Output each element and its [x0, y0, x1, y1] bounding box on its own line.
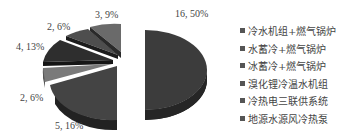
legend-item: 冷水机组+燃气锅炉	[240, 22, 336, 40]
data-label-ice-storage: 2, 6%	[47, 21, 70, 32]
legend-item: 地源水源风冷热泵	[240, 110, 336, 128]
legend-label: 冷水机组+燃气锅炉	[248, 23, 336, 38]
data-label-libr-absorption: 4, 13%	[16, 41, 44, 52]
legend-item: 冰蓄冷+燃气锅炉	[240, 57, 336, 75]
legend-item: 水蓄冷+燃气锅炉	[240, 40, 336, 58]
legend-label: 冷热电三联供系统	[248, 93, 328, 108]
legend-swatch-icon	[240, 46, 245, 51]
legend-swatch-icon	[240, 81, 245, 86]
legend-swatch-icon	[240, 116, 245, 121]
data-label-water-storage: 3, 9%	[95, 9, 118, 20]
slice-chiller-gas-boiler	[145, 30, 207, 120]
pie-chart: 16, 50% 3, 9% 2, 6% 4, 13% 2, 6% 5, 16%	[0, 0, 230, 136]
legend-label: 地源水源风冷热泵	[248, 111, 328, 126]
legend-swatch-icon	[240, 63, 245, 68]
data-label-ground-water-heat-pump: 5, 16%	[55, 120, 83, 131]
legend-item: 冷热电三联供系统	[240, 92, 336, 110]
legend-label: 水蓄冷+燃气锅炉	[248, 41, 326, 56]
legend-label: 冰蓄冷+燃气锅炉	[248, 58, 326, 73]
chart-legend: 冷水机组+燃气锅炉 水蓄冷+燃气锅炉 冰蓄冷+燃气锅炉 溴化锂冷温水机组 冷热电…	[240, 22, 336, 127]
data-label-chiller-gas-boiler: 16, 50%	[175, 8, 208, 19]
legend-item: 溴化锂冷温水机组	[240, 75, 336, 93]
legend-label: 溴化锂冷温水机组	[248, 76, 328, 91]
legend-swatch-icon	[240, 28, 245, 33]
legend-swatch-icon	[240, 98, 245, 103]
data-label-cchp: 2, 6%	[20, 92, 43, 103]
pie-chart-graphic	[0, 0, 230, 136]
